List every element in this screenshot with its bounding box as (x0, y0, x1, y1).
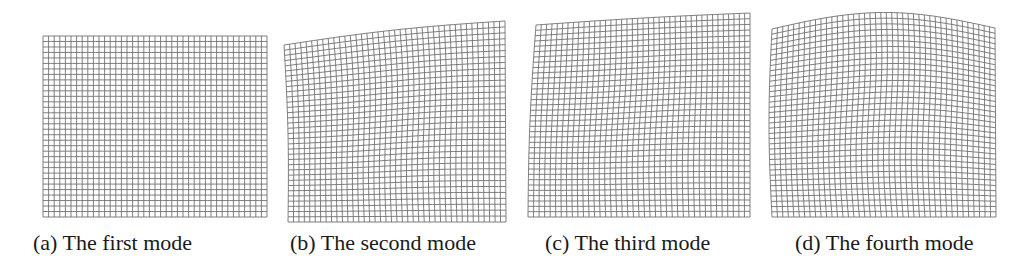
mesh-grid-a (43, 36, 267, 217)
mesh-grid-b (284, 21, 506, 222)
caption-first-mode: (a) The first mode (33, 226, 192, 260)
caption-fourth-mode: (d) The fourth mode (795, 226, 974, 260)
caption-third-mode: (c) The third mode (545, 226, 710, 260)
mesh-grid-c (528, 13, 750, 217)
mesh-grid-d (769, 13, 996, 218)
figure-modes: (a) The first mode (b) The second mode (… (0, 0, 1036, 268)
caption-second-mode: (b) The second mode (290, 226, 476, 260)
